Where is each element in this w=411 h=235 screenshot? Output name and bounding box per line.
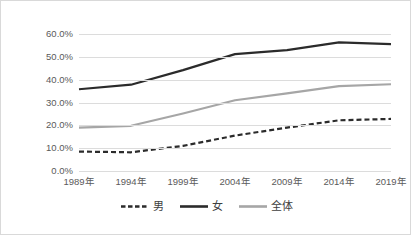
y-axis: 0.0%10.0%20.0%30.0%40.0%50.0%60.0%: [29, 34, 73, 171]
plot-area: [79, 34, 391, 171]
x-tick-label: 1994年: [115, 177, 146, 187]
legend-label: 男: [153, 201, 164, 212]
x-tick-label: 2009年: [271, 177, 302, 187]
y-tick-label: 0.0%: [51, 166, 73, 176]
x-tick-label: 1999年: [167, 177, 198, 187]
legend-item-女[interactable]: 女: [180, 201, 223, 212]
chart-legend: 男女全体: [1, 201, 411, 212]
x-axis: 1989年1994年1999年2004年2009年2014年2019年: [79, 177, 391, 191]
y-tick-label: 40.0%: [46, 75, 73, 85]
series-line-女: [79, 42, 391, 89]
x-tick-label: 2019年: [375, 177, 406, 187]
gridline: [79, 125, 391, 126]
y-tick-label: 10.0%: [46, 143, 73, 153]
x-tick-label: 2014年: [323, 177, 354, 187]
legend-item-男[interactable]: 男: [121, 201, 164, 212]
gridline: [79, 171, 391, 172]
legend-swatch-男: [121, 201, 149, 212]
gridline: [79, 57, 391, 58]
legend-swatch-全体: [239, 201, 267, 212]
x-tick-label: 2004年: [219, 177, 250, 187]
gridline: [79, 34, 391, 35]
legend-swatch-女: [180, 201, 208, 212]
y-tick-label: 20.0%: [46, 121, 73, 131]
gridline: [79, 80, 391, 81]
y-tick-label: 50.0%: [46, 52, 73, 62]
legend-label: 女: [212, 201, 223, 212]
y-tick-label: 30.0%: [46, 98, 73, 108]
y-tick-label: 60.0%: [46, 29, 73, 39]
gridline: [79, 148, 391, 149]
legend-label: 全体: [271, 201, 293, 212]
chart-container: 0.0%10.0%20.0%30.0%40.0%50.0%60.0% 1989年…: [0, 0, 411, 235]
x-tick-label: 1989年: [63, 177, 94, 187]
gridline: [79, 103, 391, 104]
legend-item-全体[interactable]: 全体: [239, 201, 293, 212]
